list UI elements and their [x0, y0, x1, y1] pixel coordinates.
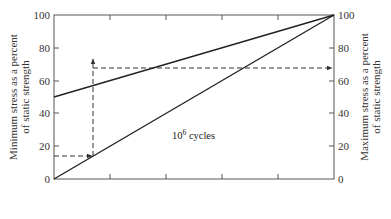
svg-text:Minimum stress as a percent: Minimum stress as a percent: [7, 34, 19, 160]
construction-arrows: [54, 59, 332, 156]
min-stress-line: [54, 15, 334, 179]
stress-diagram: 0 20 40 60 80 100 0 20 40 60 80 100 Mini…: [0, 0, 391, 219]
left-tick-labels: 0 20 40 60 80 100: [34, 9, 51, 185]
cycles-annotation: 106 cycles: [172, 128, 215, 141]
svg-text:100: 100: [34, 9, 51, 21]
svg-text:20: 20: [39, 140, 51, 152]
svg-text:80: 80: [39, 42, 51, 54]
svg-text:60: 60: [338, 75, 350, 87]
right-axis-title: Maximum stress as a percent of static st…: [358, 33, 382, 161]
svg-text:of static strength: of static strength: [19, 60, 31, 134]
svg-text:100: 100: [338, 9, 355, 21]
svg-text:of static strength: of static strength: [370, 60, 382, 134]
svg-text:60: 60: [39, 75, 51, 87]
svg-text:0: 0: [45, 173, 51, 185]
right-tick-labels: 0 20 40 60 80 100: [338, 9, 355, 185]
svg-text:20: 20: [338, 140, 350, 152]
max-stress-line: [54, 15, 334, 97]
svg-text:40: 40: [338, 107, 350, 119]
svg-text:0: 0: [338, 173, 344, 185]
svg-text:Maximum stress as a percent: Maximum stress as a percent: [358, 33, 370, 161]
left-axis-title: Minimum stress as a percent of static st…: [7, 34, 31, 160]
svg-text:40: 40: [39, 107, 51, 119]
svg-text:80: 80: [338, 42, 350, 54]
